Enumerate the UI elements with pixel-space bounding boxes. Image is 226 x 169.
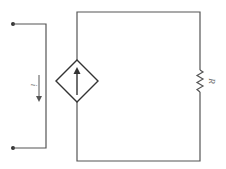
bottom-wire	[77, 92, 200, 161]
current-indicator: i	[29, 75, 42, 102]
resistor[interactable]: R	[197, 70, 217, 92]
resistor-zigzag-icon	[197, 70, 203, 92]
top-wire	[77, 12, 200, 70]
circuit-diagram: i R	[0, 0, 226, 169]
down-arrow-icon	[36, 96, 42, 102]
current-label: i	[29, 84, 39, 87]
input-port	[11, 22, 46, 150]
loop-wires	[77, 12, 200, 161]
dependent-current-source[interactable]	[56, 60, 98, 102]
resistor-label: R	[207, 77, 217, 84]
